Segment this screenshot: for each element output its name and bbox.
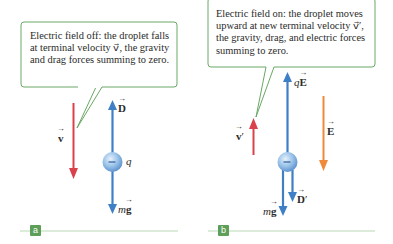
panel-a-gravity-force-arrow [108,170,117,214]
panel-b-velocity-label: v′ [236,130,244,142]
panel-b-electric-force-arrow [283,72,292,153]
panel-b-field-label: E [327,125,334,137]
panel-b-droplet [278,152,298,172]
panel-a-velocity-label: v [58,132,64,144]
millikan-oil-drop-figure: Electric field off: the droplet falls at… [0,0,393,244]
panel-a-weight-label: mg [118,203,131,215]
panel-b-weight-label: mg [263,205,276,217]
panel-a-droplet [103,152,123,172]
panel-a-velocity-arrow [69,103,78,179]
panel-a-badge: a [30,225,41,236]
panel-b-electric-force-label: qE [294,76,307,88]
panel-a-callout-text: Electric field off: the droplet falls at… [22,24,178,73]
panel-b-drag-force-arrow [288,170,297,202]
panel-b-drag-label: D′ [297,193,307,205]
panel-a-charge-label: q [126,155,132,167]
panel-b-gravity-force-arrow [279,170,288,216]
panel-a-drag-force-arrow [108,100,117,154]
panel-a-drag-label: D [118,102,126,114]
panel-b-callout-text: Electric field on: the droplet moves upw… [208,2,376,63]
panel-b-badge: b [218,225,229,236]
panel-b-velocity-arrow [249,118,258,155]
